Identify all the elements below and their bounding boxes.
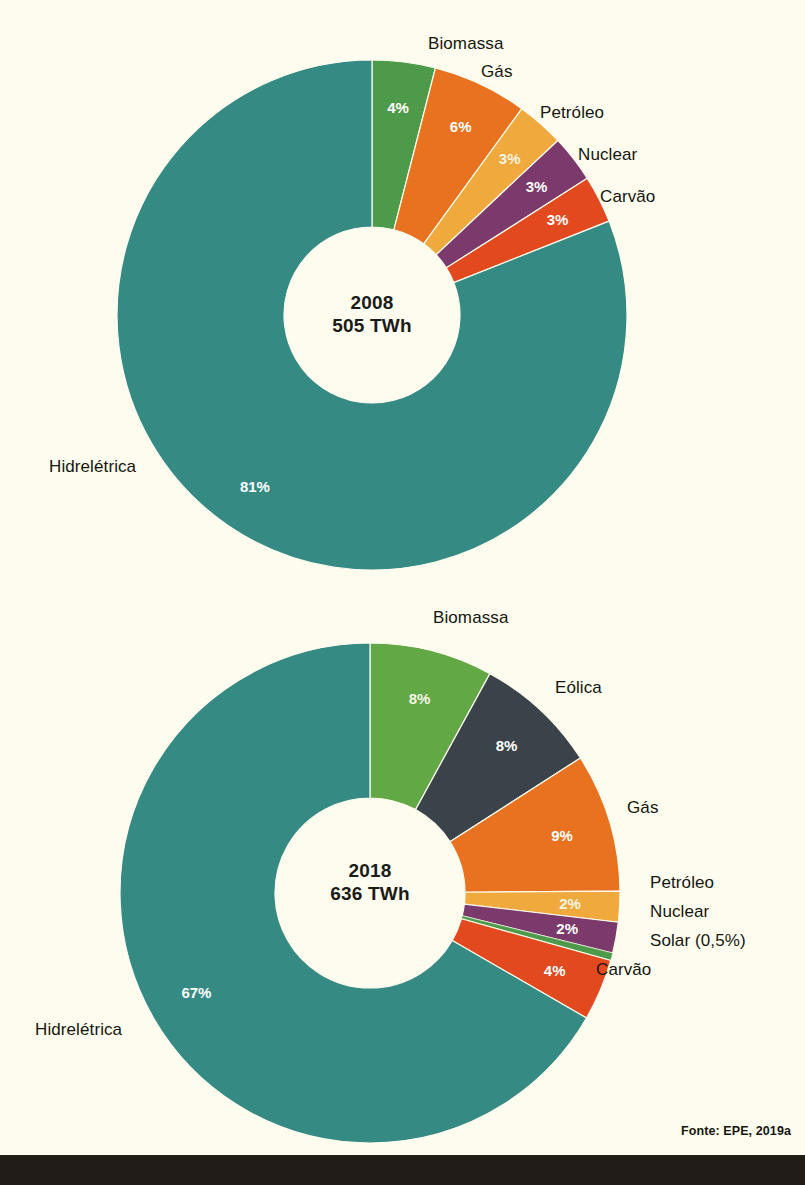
label-2008-hidreletrica: Hidrelétrica	[49, 457, 136, 477]
label-2018-gas: Gás	[627, 798, 658, 818]
label-2018-carvao: Carvão	[596, 960, 651, 980]
label-2018-biomassa: Biomassa	[433, 608, 508, 628]
label-2018-solar: Solar (0,5%)	[650, 931, 746, 951]
slice-value-petr-leo: 3%	[499, 150, 521, 167]
label-2018-petroleo: Petróleo	[650, 873, 714, 893]
slice-value-carv-o: 4%	[544, 962, 566, 979]
label-2008-petroleo: Petróleo	[540, 103, 604, 123]
label-2008-gas: Gás	[481, 62, 512, 82]
slice-value-hidrel-trica: 67%	[181, 984, 211, 1001]
donut-charts-canvas: 4%6%3%3%3%81% 8%8%9%2%2%4%67% 2008 505 T…	[0, 0, 805, 1185]
label-2008-nuclear: Nuclear	[578, 145, 637, 165]
label-2008-biomassa: Biomassa	[428, 34, 503, 54]
slice-value-hidrel-trica: 81%	[240, 478, 270, 495]
figure-matriz-eletrica: 4%6%3%3%3%81% 8%8%9%2%2%4%67% 2008 505 T…	[0, 0, 805, 1185]
slice-value-carv-o: 3%	[547, 211, 569, 228]
slice-value-petr-leo: 2%	[559, 895, 581, 912]
slice-value-nuclear: 3%	[526, 178, 548, 195]
slice-value-e-lica: 8%	[496, 737, 518, 754]
bottom-bar	[0, 1155, 805, 1185]
source-note: Fonte: EPE, 2019a	[681, 1124, 791, 1138]
center-label-year-2018: 2018	[348, 860, 391, 881]
center-label-energy-2018: 636 TWh	[330, 883, 410, 904]
slice-value-biomassa: 8%	[409, 690, 431, 707]
slice-value-g-s: 9%	[551, 827, 573, 844]
label-2018-hidreletrica: Hidrelétrica	[35, 1020, 122, 1040]
label-2018-nuclear: Nuclear	[650, 902, 709, 922]
label-2018-eolica: Eólica	[555, 678, 602, 698]
slice-value-nuclear: 2%	[556, 920, 578, 937]
slice-value-biomassa: 4%	[387, 99, 409, 116]
center-label-energy-2008: 505 TWh	[332, 315, 412, 336]
label-2008-carvao: Carvão	[600, 187, 655, 207]
center-label-year-2008: 2008	[350, 292, 393, 313]
slice-value-g-s: 6%	[450, 118, 472, 135]
